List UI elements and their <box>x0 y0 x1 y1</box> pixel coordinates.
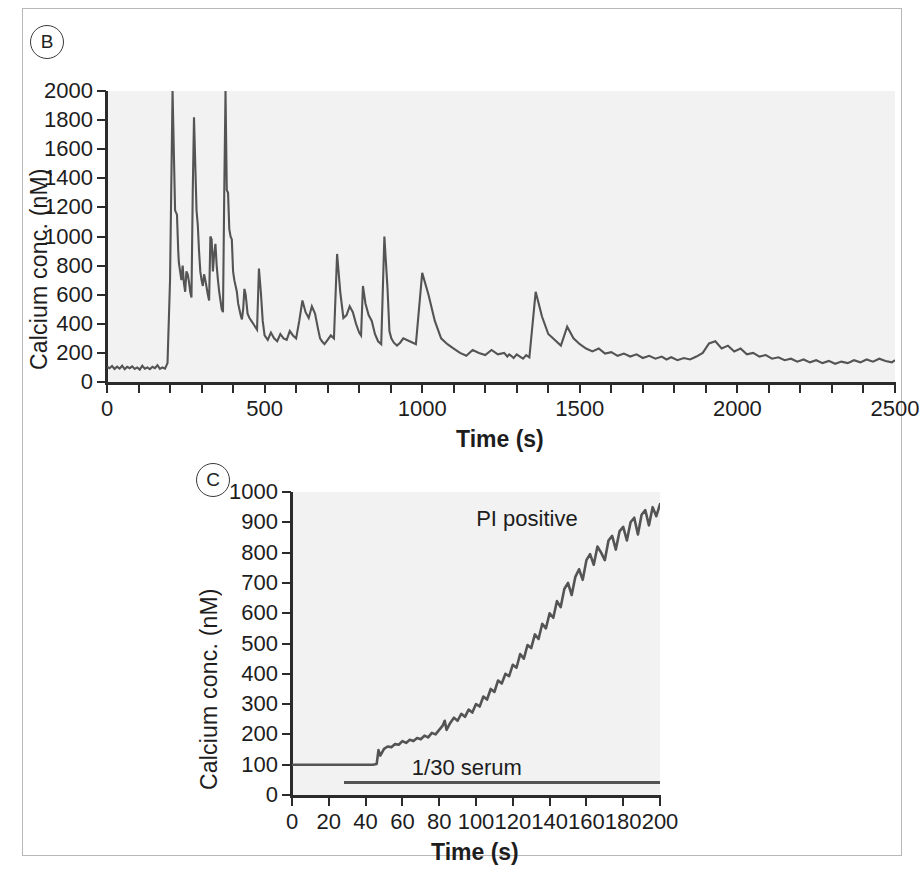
figure-container: B Calcium conc. (nM) 0200400600800100012… <box>0 0 924 873</box>
panel-c-serum-label: 1/30 serum <box>412 755 522 781</box>
panel-c-calcium-trace <box>292 504 660 765</box>
panel-c-pi-positive-label: PI positive <box>476 506 578 532</box>
panel-c-trace-svg <box>0 0 924 873</box>
panel-c-x-axis-label: Time (s) <box>431 839 519 866</box>
panel-c-serum-bar <box>344 781 660 784</box>
